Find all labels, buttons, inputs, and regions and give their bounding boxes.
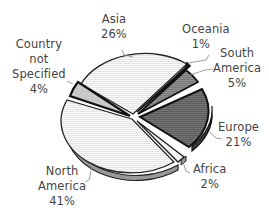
label-not-specified: Country not Specified 4% [12,37,66,97]
label-not-specified-line1: Country [12,37,66,52]
label-asia-pct: 26% [101,27,127,42]
label-europe: Europe 21% [218,120,259,150]
label-south-america: South America 5% [213,46,261,91]
label-asia: Asia 26% [101,12,127,42]
label-europe-name: Europe [218,120,259,135]
label-north-america-line2: America [38,179,86,194]
label-asia-name: Asia [101,12,127,27]
label-oceania-name: Oceania [182,22,230,37]
label-not-specified-line2: not [12,52,66,67]
label-north-america-line1: North [38,164,86,179]
label-africa: Africa 2% [193,162,226,192]
label-africa-pct: 2% [193,177,226,192]
label-europe-pct: 21% [218,135,259,150]
label-africa-name: Africa [193,162,226,177]
label-not-specified-pct: 4% [12,82,66,97]
label-north-america-pct: 41% [38,194,86,209]
label-south-america-pct: 5% [213,76,261,91]
label-south-america-line1: South [213,46,261,61]
label-south-america-line2: America [213,61,261,76]
label-not-specified-line3: Specified [12,67,66,82]
label-north-america: North America 41% [38,164,86,209]
